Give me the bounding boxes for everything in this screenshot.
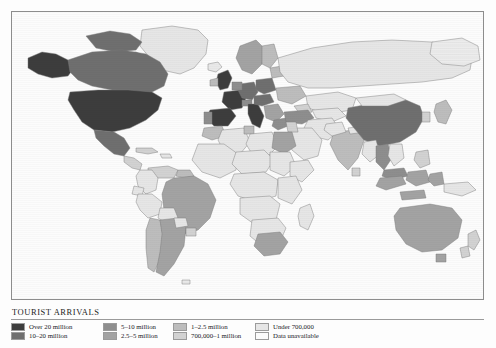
legend-swatch-10-20-million [11, 332, 25, 340]
region-cuba [136, 148, 158, 154]
region-hispaniola [160, 154, 172, 158]
legend-divider [11, 319, 484, 320]
region-korea [422, 112, 430, 122]
legend-swatch-700000-1-million [173, 332, 187, 340]
legend-item-1-2p5-million: 1–2.5 million [173, 323, 255, 331]
region-sahel [232, 150, 274, 174]
region-west-africa [192, 144, 238, 178]
legend-item-700000-1-million: 700,000–1 million [173, 332, 255, 340]
region-united-kingdom [216, 70, 232, 90]
legend-swatch-2p5-5-million [103, 332, 117, 340]
region-south-africa [254, 232, 288, 256]
legend-item-data-unavailable: Data unavailable [255, 332, 345, 340]
legend-label-over-20-million: Over 20 million [29, 323, 72, 331]
legend-label-10-20-million: 10–20 million [29, 332, 67, 340]
region-india [330, 130, 364, 170]
region-madagascar [298, 204, 314, 230]
region-sulawesi [428, 172, 444, 186]
region-new-zealand [468, 230, 480, 250]
legend-label-1-2p5-million: 1–2.5 million [191, 323, 228, 331]
region-paraguay [174, 218, 188, 228]
region-uruguay [186, 228, 196, 236]
region-finland [262, 44, 278, 68]
region-tunisia [244, 126, 254, 134]
region-falklands [182, 280, 190, 284]
region-new-guinea [444, 182, 476, 196]
legend-column-1: Over 20 million 10–20 million [11, 323, 103, 340]
region-levant [286, 122, 298, 132]
region-ireland [210, 78, 218, 86]
legend-label-data-unavailable: Data unavailable [273, 332, 319, 340]
region-new-zealand-south [460, 246, 470, 258]
page-root: TOURIST ARRIVALS Over 20 million 10–20 m… [0, 0, 496, 348]
region-canada-arctic [86, 31, 142, 52]
region-vietnam [388, 144, 404, 166]
region-peru [136, 194, 162, 218]
region-benelux [232, 82, 242, 90]
legend-swatch-under-700000 [255, 323, 269, 331]
legend-column-4: Under 700,000 Data unavailable [255, 323, 345, 340]
region-scandinavia [236, 40, 264, 74]
region-tasmania [436, 254, 446, 262]
region-central-america [124, 156, 142, 170]
region-united-states [68, 90, 162, 132]
region-austria-hungary [254, 94, 274, 106]
legend-item-under-700000: Under 700,000 [255, 323, 345, 331]
legend-label-2p5-5-million: 2.5–5 million [121, 332, 158, 340]
region-poland [256, 78, 276, 94]
region-australia [394, 204, 462, 252]
legend-column-3: 1–2.5 million 700,000–1 million [173, 323, 255, 340]
legend-label-5-10-million: 5–10 million [121, 323, 156, 331]
world-map-frame [11, 11, 484, 300]
legend-label-under-700000: Under 700,000 [273, 323, 314, 331]
region-indonesia-java [400, 190, 426, 200]
legend-swatch-1-2p5-million [173, 323, 187, 331]
region-borneo [406, 170, 430, 186]
legend-column-2: 5–10 million 2.5–5 million [103, 323, 173, 340]
legend-swatch-data-unavailable [255, 332, 269, 340]
region-ukraine [276, 86, 306, 104]
world-map-svg [12, 12, 483, 299]
legend-swatch-over-20-million [11, 323, 25, 331]
region-alaska [28, 52, 74, 78]
legend-swatch-5-10-million [103, 323, 117, 331]
region-philippines [414, 150, 430, 168]
region-iceland [208, 62, 222, 72]
region-italy [248, 104, 264, 128]
region-portugal [204, 112, 212, 124]
legend-columns: Over 20 million 10–20 million 5–10 milli… [11, 323, 484, 340]
legend-item-over-20-million: Over 20 million [11, 323, 103, 331]
region-egypt [272, 132, 296, 154]
region-indonesia-sumatra [376, 176, 406, 190]
region-mexico [94, 130, 130, 156]
legend-label-700000-1-million: 700,000–1 million [191, 332, 241, 340]
region-sri-lanka [352, 168, 360, 176]
legend-item-10-20-million: 10–20 million [11, 332, 103, 340]
region-japan [434, 100, 452, 124]
legend-item-5-10-million: 5–10 million [103, 323, 173, 331]
map-legend: TOURIST ARRIVALS Over 20 million 10–20 m… [11, 307, 484, 340]
legend-item-2p5-5-million: 2.5–5 million [103, 332, 173, 340]
legend-title: TOURIST ARRIVALS [12, 307, 484, 317]
